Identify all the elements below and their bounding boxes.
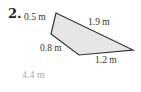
side-label-0-8: 0.8 m — [40, 43, 62, 53]
perimeter-answer: 4.4 m — [22, 69, 45, 80]
side-label-1-9: 1.9 m — [88, 17, 110, 27]
side-label-1-2: 1.2 m — [95, 55, 117, 65]
side-label-0-5: 0.5 m — [24, 12, 46, 22]
